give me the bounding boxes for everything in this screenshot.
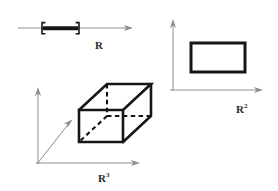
r3-box	[79, 84, 151, 142]
label-r2: R2	[236, 104, 247, 115]
label-r3: R3	[98, 173, 109, 184]
r2-horizontal-axis	[170, 87, 263, 93]
r3-diagonal-axis	[37, 120, 73, 164]
r3-diagonal-axis-shaft	[37, 122, 70, 164]
r3-horizontal-axis	[36, 160, 140, 166]
label-r3-exponent: 3	[106, 171, 110, 179]
label-r2-base: R	[236, 103, 244, 115]
figure-canvas	[0, 0, 278, 191]
label-r1: R	[95, 40, 103, 51]
r3-diagonal-axis-arrowhead	[64, 120, 73, 128]
r3-vertical-axis	[35, 87, 41, 164]
r2-vertical-axis	[170, 19, 176, 91]
panel-r1	[18, 23, 133, 34]
label-r1-base: R	[95, 39, 103, 51]
panel-r2	[170, 19, 263, 93]
label-r2-exponent: 2	[244, 102, 248, 110]
panel-r3	[35, 84, 151, 166]
r2-rectangle	[191, 43, 245, 72]
label-r3-base: R	[98, 172, 106, 184]
r3-box-front-face	[79, 110, 123, 142]
figure-root: R R2 R3	[0, 0, 278, 191]
